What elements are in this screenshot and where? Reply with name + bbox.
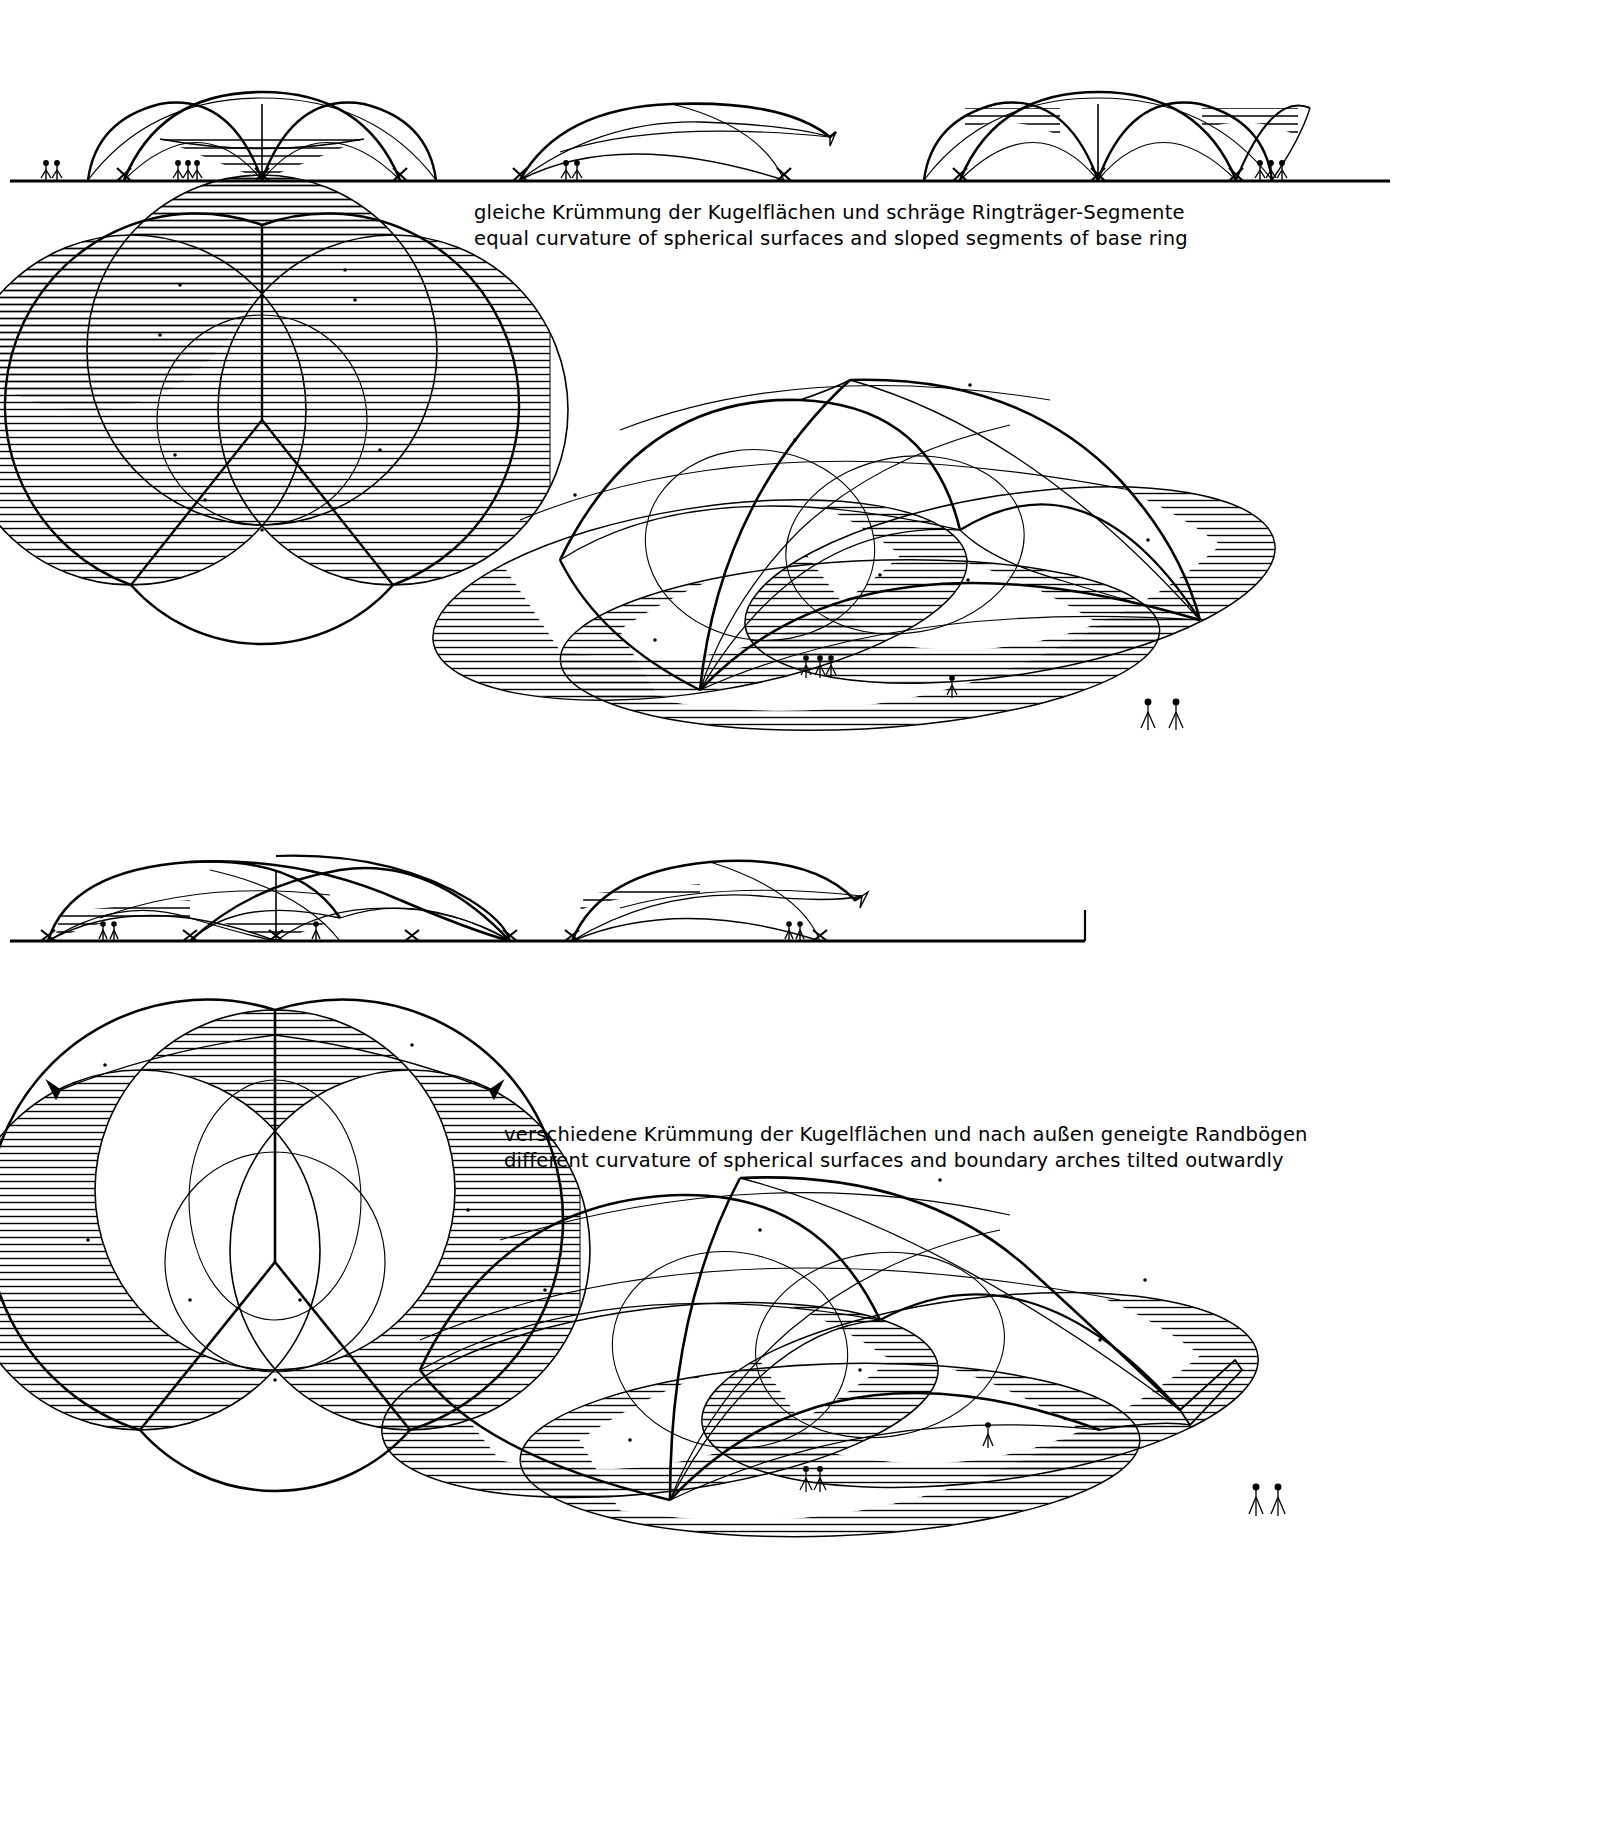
drawing-sheet: gleiche Krümmung der Kugelflächen und sc… xyxy=(0,0,1615,1833)
block-upper xyxy=(0,0,1615,800)
axono-lower xyxy=(350,1150,1350,1600)
elevation-lower-front xyxy=(10,856,1085,942)
axono-upper xyxy=(380,350,1330,780)
caption-lower-english: different curvature of spherical surface… xyxy=(504,1148,1308,1174)
hatched-base-plane xyxy=(380,350,1330,780)
caption-lower-german: verschiedene Krümmung der Kugelflächen u… xyxy=(504,1122,1308,1148)
hatched-base-plane xyxy=(350,1150,1350,1600)
caption-upper-german: gleiche Krümmung der Kugelflächen und sc… xyxy=(474,200,1188,226)
elevation-upper-rear xyxy=(924,92,1310,181)
hatched-shell-panel xyxy=(55,900,190,940)
hatched-shell-panel xyxy=(580,884,700,910)
elevation-lower-side xyxy=(565,861,868,941)
caption-upper-english: equal curvature of spherical surfaces an… xyxy=(474,226,1188,252)
caption-lower: verschiedene Krümmung der Kugelflächen u… xyxy=(504,1122,1308,1173)
caption-upper: gleiche Krümmung der Kugelflächen und sc… xyxy=(474,200,1188,251)
elevation-upper-side xyxy=(513,104,836,181)
block-lower xyxy=(0,800,1615,1833)
